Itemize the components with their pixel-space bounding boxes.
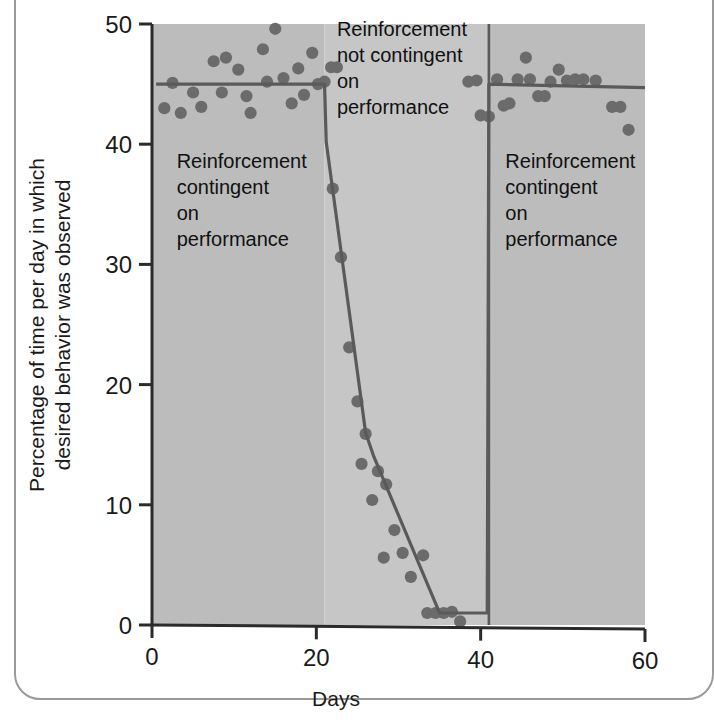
data-point: [622, 124, 634, 136]
data-point: [378, 552, 390, 564]
data-point: [590, 74, 602, 86]
x-tick-label: 60: [632, 647, 659, 674]
data-point: [232, 64, 244, 76]
data-point: [520, 52, 532, 64]
data-point: [454, 615, 466, 627]
annotation-line: Reinforcement: [337, 18, 468, 40]
x-tick-label: 0: [145, 643, 158, 670]
data-point: [216, 86, 228, 98]
data-point: [220, 52, 232, 64]
y-axis-title-line-2: desired behavior was observed: [51, 180, 74, 471]
data-point: [175, 107, 187, 119]
y-axis-title: Percentage of time per day in which desi…: [25, 158, 74, 492]
data-point: [158, 102, 170, 114]
x-axis-title: Days: [312, 687, 360, 710]
data-point: [269, 23, 281, 35]
x-axis-tick-labels: 0204060: [145, 643, 658, 674]
data-point: [208, 55, 220, 67]
data-point: [298, 89, 310, 101]
y-tick-label: 40: [105, 131, 132, 158]
y-tick-label: 50: [105, 11, 132, 38]
annotation-line: on: [177, 202, 199, 224]
x-tick-label: 40: [467, 646, 494, 673]
y-tick-label: 20: [105, 372, 132, 399]
data-point: [187, 86, 199, 98]
annotation-line: performance: [337, 96, 449, 118]
x-tick-label: 20: [303, 644, 330, 671]
y-tick-label: 30: [105, 251, 132, 278]
data-point: [366, 494, 378, 506]
data-point: [261, 76, 273, 88]
data-point: [306, 47, 318, 59]
data-point: [240, 90, 252, 102]
data-point: [277, 72, 289, 84]
data-point: [614, 101, 626, 113]
x-axis-line: [152, 625, 645, 629]
y-axis-title-line-1: Percentage of time per day in which: [25, 158, 48, 492]
annotation-line: on: [505, 202, 527, 224]
data-point: [257, 43, 269, 55]
data-point: [503, 97, 515, 109]
annotation-line: performance: [505, 228, 617, 250]
data-point: [286, 97, 298, 109]
annotation-line: contingent: [505, 176, 598, 198]
phase-band-3: [489, 24, 645, 625]
annotation-line: Reinforcement: [505, 150, 636, 172]
data-point: [577, 73, 589, 85]
y-axis-ticks: [139, 24, 152, 625]
y-tick-label: 0: [119, 612, 132, 639]
data-point: [417, 549, 429, 561]
data-point: [292, 62, 304, 74]
annotation-line: not contingent: [337, 44, 463, 66]
data-point: [553, 64, 565, 76]
annotation-line: performance: [177, 228, 289, 250]
data-point: [470, 74, 482, 86]
y-axis-tick-labels: 01020304050: [105, 11, 132, 639]
data-point: [539, 90, 551, 102]
data-point: [397, 547, 409, 559]
data-point: [355, 458, 367, 470]
annotation-line: contingent: [177, 176, 270, 198]
annotation-line: Reinforcement: [177, 150, 308, 172]
data-point: [388, 524, 400, 536]
data-point: [195, 101, 207, 113]
annotation-line: on: [337, 70, 359, 92]
y-tick-label: 10: [105, 492, 132, 519]
data-point: [405, 571, 417, 583]
data-point: [245, 107, 257, 119]
